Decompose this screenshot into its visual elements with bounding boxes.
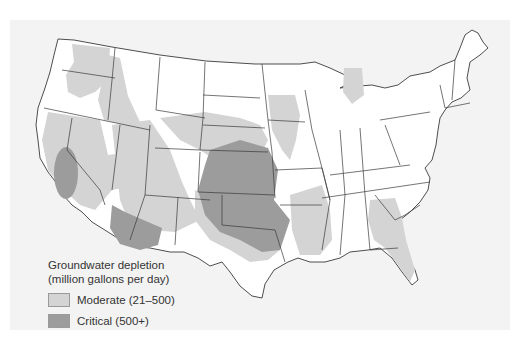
legend-title-line2: (million gallons per day) (48, 272, 175, 286)
legend-label-moderate: Moderate (21–500) (77, 294, 175, 306)
moderate-swatch (48, 293, 70, 307)
critical-swatch (48, 314, 70, 328)
map-legend: Groundwater depletion (million gallons p… (48, 258, 175, 328)
legend-title-line1: Groundwater depletion (48, 258, 175, 272)
legend-item-moderate: Moderate (21–500) (48, 293, 175, 307)
legend-item-critical: Critical (500+) (48, 314, 175, 328)
legend-label-critical: Critical (500+) (77, 315, 149, 327)
